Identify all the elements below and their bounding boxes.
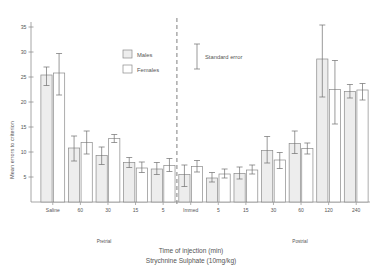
bar-group (206, 169, 230, 202)
bar-group (317, 25, 341, 202)
bar-female (357, 90, 368, 202)
bar-male (41, 75, 52, 202)
x-axis-tick-label: 30 (271, 207, 277, 213)
x-axis-tick-label: 240 (352, 207, 361, 213)
y-axis-tick-label: 30 (21, 49, 27, 55)
legend-label-standard-error: Standard error (205, 54, 242, 60)
bar-female (109, 139, 120, 203)
x-axis-tick-label: 15 (243, 207, 249, 213)
bar-female (136, 168, 147, 202)
legend-label-females: Females (137, 67, 159, 73)
legend-swatch-males (123, 50, 132, 58)
x-axis-tick-label: 15 (133, 207, 139, 213)
caption-line-1: Time of injection (min) (159, 247, 224, 255)
y-axis-tick-label: 15 (21, 124, 27, 130)
bar-group (151, 159, 175, 203)
x-axis-tick-label: 5 (162, 207, 165, 213)
bar-female (247, 170, 258, 202)
bar-group (344, 84, 368, 203)
section-label-postrial: Postrial (292, 239, 307, 244)
x-axis-tick-label: 5 (217, 207, 220, 213)
bar-group (124, 158, 148, 203)
bar-female (302, 149, 313, 203)
chart-figure: 5101520253035 MalesFemalesStandard error… (0, 0, 382, 267)
x-axis-tick-labels: Saline6030155Immed5153060120240 (46, 202, 361, 213)
y-axis-tick-label: 20 (21, 99, 27, 105)
bar-group (41, 54, 65, 203)
legend-swatch-females (123, 65, 132, 73)
x-axis-tick-label: Immed (183, 207, 199, 213)
legend-standard-error-marker (194, 44, 200, 69)
bar-male (124, 163, 135, 203)
bar-male (344, 92, 355, 203)
legend-label-males: Males (137, 52, 153, 58)
bar-group (96, 135, 120, 203)
x-axis-tick-label: 60 (78, 207, 84, 213)
x-axis-tick-label: Saline (46, 207, 60, 213)
chart-legend: MalesFemalesStandard error (123, 44, 242, 73)
y-axis-tick-label: 35 (21, 24, 27, 30)
bar-groups (41, 25, 368, 202)
y-axis-title: Mean errors to criterion (9, 121, 15, 179)
y-axis-tick-label: 10 (21, 149, 27, 155)
bar-group (289, 131, 313, 202)
caption-line-2: Strychnine Sulphate (10mg/kg) (146, 257, 237, 265)
bar-group (262, 137, 286, 203)
section-label-pretrial: Pretrial (97, 239, 112, 244)
y-axis-tick-label: 25 (21, 74, 27, 80)
bar-group (179, 161, 203, 203)
x-axis-tick-label: 30 (105, 207, 111, 213)
x-axis-tick-label: 60 (298, 207, 304, 213)
x-axis-tick-label: 120 (324, 207, 333, 213)
bar-group (234, 165, 258, 202)
y-axis-tick-label: 5 (24, 174, 27, 180)
bar-group (68, 131, 92, 202)
